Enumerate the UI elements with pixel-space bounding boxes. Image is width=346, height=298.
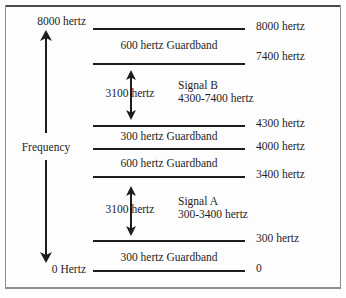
band-line-0 — [93, 270, 245, 272]
band-line-8000 — [93, 28, 245, 30]
signal-b-arrowhead-down — [125, 110, 137, 120]
right-label-4300: 4300 hertz — [256, 117, 305, 130]
guardband-label-300-upper: 300 hertz Guardband — [93, 130, 245, 143]
signal-a-arrowhead-down — [125, 226, 137, 236]
signal-b-name: Signal B — [178, 79, 218, 92]
frame-right-rule — [340, 5, 341, 289]
signal-a-range: 300-3400 hertz — [178, 208, 248, 221]
right-label-7400: 7400 hertz — [256, 50, 305, 63]
guardband-label-600-upper: 600 hertz Guardband — [93, 39, 245, 52]
axis-title: Frequency — [0, 141, 92, 154]
band-line-7400 — [93, 63, 245, 65]
axis-shaft-upper — [45, 38, 47, 133]
right-label-4000: 4000 hertz — [256, 140, 305, 153]
frame-bottom-rule — [5, 287, 341, 289]
axis-shaft-lower — [45, 160, 47, 255]
band-line-4000 — [93, 148, 245, 150]
band-line-3400 — [93, 176, 245, 178]
band-line-4300 — [93, 125, 245, 127]
guardband-label-300-lower: 300 hertz Guardband — [93, 251, 245, 264]
right-label-300: 300 hertz — [256, 232, 299, 245]
signal-b-width-label: 3100 hertz — [95, 87, 165, 100]
axis-arrowhead-down — [39, 252, 53, 263]
right-label-3400: 3400 hertz — [256, 168, 305, 181]
axis-top-label: 8000 hertz — [0, 15, 86, 28]
signal-a-width-label: 3100 hertz — [95, 203, 165, 216]
signal-b-range: 4300-7400 hertz — [178, 92, 254, 105]
signal-a-name: Signal A — [178, 195, 218, 208]
guardband-label-600-lower: 600 hertz Guardband — [93, 157, 245, 170]
right-label-0: 0 — [256, 262, 262, 275]
right-label-8000: 8000 hertz — [256, 20, 305, 33]
diagram-canvas: 8000 hertz Frequency 0 Hertz 8000 hertz … — [0, 0, 346, 298]
axis-bottom-label: 0 Hertz — [0, 263, 86, 276]
frame-top-rule — [5, 5, 341, 7]
band-line-300 — [93, 240, 245, 242]
